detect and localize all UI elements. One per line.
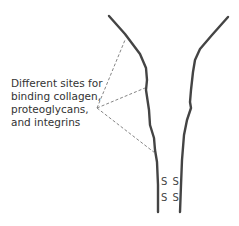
- right-chain: [180, 17, 228, 212]
- disulfide-bond-2: S S: [161, 192, 180, 203]
- disulfide-bond-1: S S: [161, 176, 180, 187]
- binding-sites-label: Different sites for binding collagen, pr…: [11, 77, 103, 129]
- label-line-4: and integrins: [11, 116, 103, 129]
- label-line-2: binding collagen,: [11, 90, 103, 103]
- label-line-3: proteoglycans,: [11, 103, 103, 116]
- left-chain: [109, 16, 158, 212]
- label-line-1: Different sites for: [11, 77, 103, 90]
